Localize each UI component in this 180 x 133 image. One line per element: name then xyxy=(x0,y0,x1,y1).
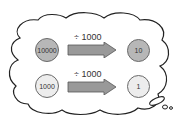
arrow-icon-1 xyxy=(67,42,117,58)
operation-label-1: ÷ 1000 xyxy=(74,32,101,42)
coin-10: 10 xyxy=(127,39,150,62)
arrow-icon-2 xyxy=(67,79,117,95)
coin-1000: 1000 xyxy=(35,74,59,98)
coin-1: 1 xyxy=(127,75,150,98)
operation-label-2: ÷ 1000 xyxy=(74,69,101,79)
thought-cloud xyxy=(0,0,180,133)
coin-10000: 10000 xyxy=(35,38,59,62)
